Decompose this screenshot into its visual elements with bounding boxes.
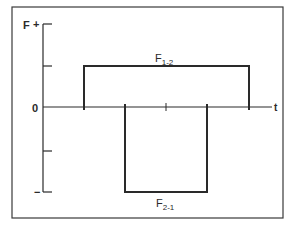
pulse-f12-label: F1-2 xyxy=(155,52,174,67)
diagram-frame xyxy=(12,7,283,218)
x-axis xyxy=(43,103,272,111)
negative-sign: − xyxy=(34,186,40,198)
pulse-f21-label: F2-1 xyxy=(156,197,175,212)
x-axis-label: t xyxy=(274,102,278,113)
force-time-diagram: F + 0 − t F1-2 F2-1 xyxy=(0,0,290,227)
pulse-f21 xyxy=(125,104,207,192)
y-axis-label: F xyxy=(23,19,30,31)
zero-label: 0 xyxy=(32,102,38,114)
positive-sign: + xyxy=(33,18,39,30)
y-axis xyxy=(43,24,52,192)
